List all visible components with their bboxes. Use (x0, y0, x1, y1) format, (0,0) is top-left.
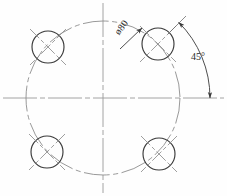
angle-extension-line-upper (168, 16, 186, 34)
hole-bottom-left (29, 134, 65, 170)
hole-top-left (30, 29, 66, 65)
technical-drawing-canvas: ø80 45° (0, 0, 227, 196)
angle-dimension-label: 45° (191, 51, 205, 62)
hole-bottom-right (141, 136, 177, 172)
